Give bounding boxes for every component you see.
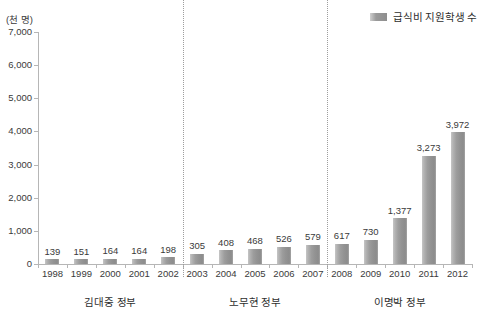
x-axis-tick-label: 2007 bbox=[302, 269, 323, 279]
plot-area: 01,0002,0003,0004,0005,0006,0007,000 139… bbox=[38, 32, 472, 264]
x-axis-tick-label: 2002 bbox=[158, 269, 179, 279]
bar-value-label: 164 bbox=[131, 246, 147, 256]
bar-slot: 3,972 bbox=[443, 32, 472, 264]
bar-slot: 468 bbox=[241, 32, 270, 264]
group-divider bbox=[183, 0, 184, 277]
x-axis-tick-label: 2003 bbox=[187, 269, 208, 279]
x-axis-tick-label: 2000 bbox=[100, 269, 121, 279]
bar-value-label: 730 bbox=[363, 227, 379, 237]
bar-slot: 164 bbox=[125, 32, 154, 264]
x-axis-tick bbox=[38, 264, 39, 268]
bar-slot: 164 bbox=[96, 32, 125, 264]
x-axis-tick bbox=[414, 264, 415, 268]
bar[interactable] bbox=[277, 247, 291, 264]
x-axis-tick bbox=[125, 264, 126, 268]
y-axis-tick-label: 6,000 bbox=[8, 60, 32, 70]
bar-value-label: 1,377 bbox=[388, 206, 412, 216]
x-axis-tick-label: 1999 bbox=[71, 269, 92, 279]
bar-slot: 305 bbox=[183, 32, 212, 264]
legend-swatch-icon bbox=[370, 13, 387, 21]
y-axis-unit-label: (천 명) bbox=[6, 12, 33, 26]
bar[interactable] bbox=[335, 244, 349, 264]
bar[interactable] bbox=[364, 240, 378, 264]
bar-slot: 730 bbox=[356, 32, 385, 264]
y-axis-tick-label: 2,000 bbox=[8, 193, 32, 203]
x-axis-tick-label: 2008 bbox=[331, 269, 352, 279]
x-axis-tick bbox=[241, 264, 242, 268]
y-axis-tick-label: 5,000 bbox=[8, 94, 32, 104]
bar-value-label: 151 bbox=[73, 247, 89, 257]
bar[interactable] bbox=[74, 259, 88, 264]
bar-value-label: 198 bbox=[160, 245, 176, 255]
bar[interactable] bbox=[132, 259, 146, 264]
bar-value-label: 3,273 bbox=[417, 143, 441, 153]
y-axis-tick-label: 1,000 bbox=[8, 226, 32, 236]
x-axis-tick bbox=[212, 264, 213, 268]
bar-slot: 526 bbox=[269, 32, 298, 264]
bar-value-label: 526 bbox=[276, 234, 292, 244]
x-axis-tick bbox=[269, 264, 270, 268]
bar-slot: 151 bbox=[67, 32, 96, 264]
bar-slot: 1,377 bbox=[385, 32, 414, 264]
bar-value-label: 617 bbox=[334, 231, 350, 241]
x-axis-tick bbox=[472, 264, 473, 268]
legend-label: 급식비 지원학생 수 bbox=[393, 9, 477, 24]
x-axis-tick-label: 2009 bbox=[360, 269, 381, 279]
y-axis-tick-label: 0 bbox=[27, 259, 32, 269]
group-label: 노무현 정부 bbox=[229, 294, 281, 309]
group-divider bbox=[327, 0, 328, 277]
chart-legend: 급식비 지원학생 수 bbox=[370, 9, 477, 24]
bar-slot: 617 bbox=[327, 32, 356, 264]
x-axis-tick-label: 2005 bbox=[244, 269, 265, 279]
x-axis-tick bbox=[154, 264, 155, 268]
x-axis-tick-label: 2004 bbox=[215, 269, 236, 279]
bar-value-label: 305 bbox=[189, 241, 205, 251]
y-axis-tick-label: 3,000 bbox=[8, 160, 32, 170]
group-label: 이명박 정부 bbox=[374, 294, 426, 309]
bar-value-label: 139 bbox=[45, 247, 61, 257]
bar[interactable] bbox=[422, 156, 436, 264]
x-axis-tick bbox=[96, 264, 97, 268]
bar-value-label: 579 bbox=[305, 232, 321, 242]
x-axis-tick bbox=[385, 264, 386, 268]
x-axis-tick bbox=[67, 264, 68, 268]
group-label: 김대중 정부 bbox=[84, 294, 136, 309]
bar[interactable] bbox=[393, 218, 407, 264]
bar[interactable] bbox=[451, 132, 465, 264]
bar-value-label: 408 bbox=[218, 238, 234, 248]
bar-slot: 579 bbox=[298, 32, 327, 264]
x-axis-tick bbox=[356, 264, 357, 268]
x-axis-tick-label: 1998 bbox=[42, 269, 63, 279]
bar-slot: 198 bbox=[154, 32, 183, 264]
x-axis-tick bbox=[298, 264, 299, 268]
y-axis-tick-label: 4,000 bbox=[8, 127, 32, 137]
bar[interactable] bbox=[45, 259, 59, 264]
bar-slot: 139 bbox=[38, 32, 67, 264]
bar-value-label: 164 bbox=[102, 246, 118, 256]
x-axis-tick-label: 2001 bbox=[129, 269, 150, 279]
bar[interactable] bbox=[161, 257, 175, 264]
bar[interactable] bbox=[219, 250, 233, 264]
x-axis-tick-label: 2012 bbox=[447, 269, 468, 279]
bar[interactable] bbox=[103, 259, 117, 264]
bar-slot: 3,273 bbox=[414, 32, 443, 264]
y-axis-tick-label: 7,000 bbox=[8, 27, 32, 37]
bar[interactable] bbox=[248, 249, 262, 265]
x-axis-tick-label: 2006 bbox=[273, 269, 294, 279]
bar-value-label: 3,972 bbox=[446, 120, 470, 130]
bar[interactable] bbox=[306, 245, 320, 264]
bar[interactable] bbox=[190, 254, 204, 264]
bar-slot: 408 bbox=[212, 32, 241, 264]
x-axis-line bbox=[38, 264, 472, 265]
bar-chart: (천 명) 급식비 지원학생 수 01,0002,0003,0004,0005,… bbox=[0, 0, 485, 323]
x-axis-tick-label: 2011 bbox=[418, 269, 438, 279]
x-axis-tick bbox=[443, 264, 444, 268]
x-axis-tick-label: 2010 bbox=[389, 269, 410, 279]
bar-value-label: 468 bbox=[247, 236, 263, 246]
